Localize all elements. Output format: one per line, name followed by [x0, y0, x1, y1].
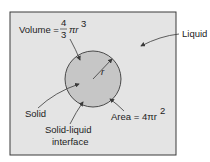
area-exponent: 2 [160, 105, 165, 116]
liquid-label: Liquid [182, 28, 207, 39]
interface-label-line1: Solid-liquid [45, 124, 91, 135]
volume-exponent: 3 [81, 18, 86, 29]
solid-label: Solid [25, 108, 46, 119]
volume-label: Volume = [19, 24, 59, 35]
interface-label-line2: interface [52, 136, 88, 147]
volume-fraction-denominator: 3 [61, 29, 66, 40]
volume-fraction-numerator: 4 [61, 17, 66, 28]
volume-pi-r: πr [69, 24, 79, 35]
nucleus-diagram: r Volume = 4 3 πr 3 Liquid Solid Solid-l… [0, 0, 210, 162]
area-label: Area = 4πr [111, 111, 157, 122]
